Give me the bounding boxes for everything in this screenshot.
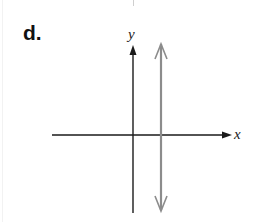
y-axis-arrow-icon [130, 45, 137, 55]
vertical-line-graph [155, 44, 167, 211]
x-axis [52, 132, 232, 139]
y-axis [130, 45, 137, 213]
x-axis-arrow-icon [222, 132, 232, 139]
coordinate-plane [0, 0, 258, 222]
